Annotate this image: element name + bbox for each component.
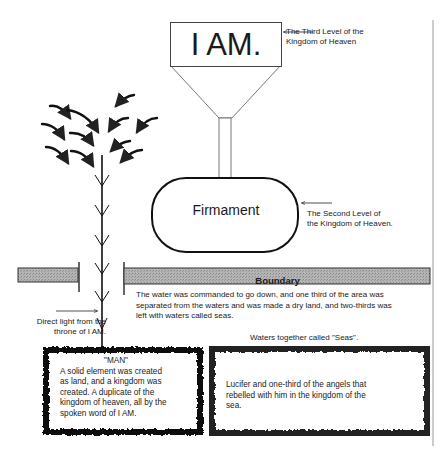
man-title: "MAN" — [60, 356, 172, 367]
direct-light-note: Direct light from the throne of I AM. — [20, 317, 106, 337]
firmament-label: Firmament — [190, 202, 262, 218]
third-level-note: The Third Level of the Kingdom of Heaven — [286, 27, 364, 47]
water-paragraph: The water was commanded to go down, and … — [136, 290, 411, 322]
second-level-note: The Second Level of the Kingdom of Heave… — [307, 209, 393, 229]
funnel-connector — [170, 65, 281, 180]
i-am-label: I AM. — [191, 27, 262, 63]
i-am-box: I AM. — [170, 22, 282, 67]
man-box-text: "MAN" A solid element was created as lan… — [60, 356, 172, 419]
seas-box-text: Lucifer and one-third of the angels that… — [226, 380, 386, 412]
seas-title: Waters together called "Seas". — [250, 333, 358, 342]
light-rays — [42, 95, 157, 166]
boundary-label: Boundary — [125, 275, 430, 286]
